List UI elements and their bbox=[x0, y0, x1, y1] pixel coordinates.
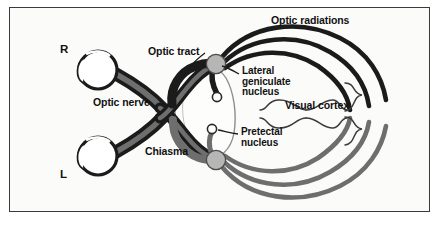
label-optic-tract: Optic tract bbox=[148, 46, 199, 57]
label-visual-cortex: Visual cortex bbox=[285, 100, 349, 111]
visual-pathway-figure: R L Optic nerve Optic tract Chiasma Opti… bbox=[0, 0, 442, 229]
label-left-side: L bbox=[60, 168, 67, 180]
label-chiasma: Chiasma bbox=[145, 146, 188, 157]
figure-frame bbox=[9, 7, 430, 212]
pretectal-line-2: nucleus bbox=[241, 138, 282, 149]
label-optic-radiations: Optic radiations bbox=[271, 15, 349, 26]
label-pretectal-nucleus: Pretectal nucleus bbox=[241, 127, 282, 148]
label-optic-nerve: Optic nerve bbox=[93, 97, 150, 108]
lgn-line-3: nucleus bbox=[242, 87, 290, 98]
label-lateral-geniculate-nucleus: Lateral geniculate nucleus bbox=[242, 66, 290, 98]
label-right-side: R bbox=[60, 43, 68, 55]
